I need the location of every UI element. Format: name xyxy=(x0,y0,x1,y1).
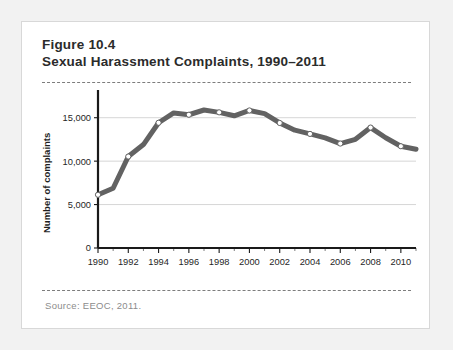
source-note: Source: EEOC, 2011. xyxy=(45,300,141,311)
line-chart-svg: 05,00010,00015,000 199019921994199619982… xyxy=(30,88,423,288)
chart-plot-area: 05,00010,00015,000 199019921994199619982… xyxy=(30,88,423,288)
axis-tick-marks xyxy=(94,118,416,253)
figure-card: Figure 10.4 Sexual Harassment Complaints… xyxy=(21,21,430,329)
divider-top xyxy=(42,82,411,83)
svg-text:0: 0 xyxy=(86,243,91,253)
svg-text:1994: 1994 xyxy=(148,257,169,267)
divider-bottom xyxy=(42,290,411,291)
svg-text:2006: 2006 xyxy=(330,257,351,267)
figure-title-block: Figure 10.4 Sexual Harassment Complaints… xyxy=(42,36,412,70)
svg-text:1998: 1998 xyxy=(209,257,230,267)
svg-text:15,000: 15,000 xyxy=(63,113,91,123)
y-axis-tick-labels: 05,00010,00015,000 xyxy=(63,113,91,253)
svg-text:2008: 2008 xyxy=(360,257,381,267)
svg-text:1992: 1992 xyxy=(118,257,139,267)
y-axis-label: Number of complaints xyxy=(41,133,52,233)
svg-text:2010: 2010 xyxy=(391,257,412,267)
svg-text:10,000: 10,000 xyxy=(63,157,91,167)
figure-title: Sexual Harassment Complaints, 1990–2011 xyxy=(42,53,412,70)
complaints-trend-line xyxy=(98,110,416,195)
figure-number: Figure 10.4 xyxy=(42,36,412,53)
svg-text:1996: 1996 xyxy=(179,257,200,267)
x-axis-tick-labels: 1990199219941996199820002002200420062008… xyxy=(88,257,412,267)
svg-text:2004: 2004 xyxy=(300,257,321,267)
data-point-markers xyxy=(95,108,403,198)
svg-text:1990: 1990 xyxy=(88,257,109,267)
svg-text:2000: 2000 xyxy=(239,257,260,267)
svg-text:2002: 2002 xyxy=(269,257,290,267)
svg-text:5,000: 5,000 xyxy=(68,200,91,210)
